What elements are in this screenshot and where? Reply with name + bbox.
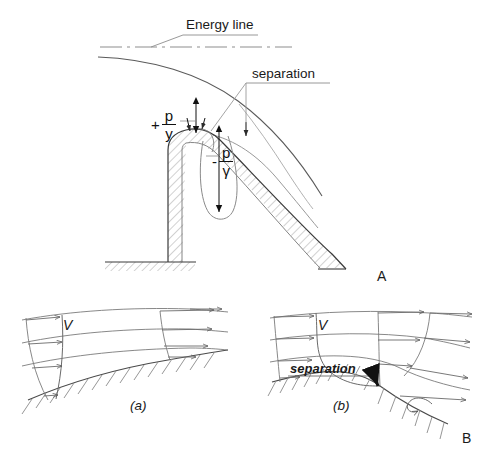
caption-sub-a: (a) — [130, 399, 147, 413]
figure-root: Energy line separation + p y - p γ V V s… — [0, 0, 493, 458]
section-line-b-upstream — [274, 316, 280, 382]
velocity-profile-b-downstream — [404, 313, 430, 376]
section-line-a-downstream — [160, 311, 170, 360]
freestream-arrows-b — [400, 313, 472, 400]
energy-line-label: Energy line — [186, 18, 254, 32]
crest-pressure-arrow-2 — [202, 118, 205, 129]
figure-canvas — [0, 0, 493, 458]
negative-pressure-denominator: γ — [219, 162, 233, 178]
streamline-a-2 — [22, 329, 228, 343]
positive-pressure-sign: + — [151, 116, 160, 133]
positive-pressure-label: + p y — [151, 108, 176, 141]
section-line-a-upstream — [26, 318, 48, 400]
wall-hatch-a — [22, 353, 214, 414]
negative-pressure-sign: - — [212, 153, 217, 170]
negative-pressure-numerator: p — [219, 145, 233, 161]
negative-pressure-label: - p γ — [212, 145, 233, 178]
section-line-b-downstream — [378, 312, 380, 386]
velocity-label-sub-b: V — [318, 318, 327, 332]
velocity-label-sub-a: V — [63, 318, 72, 332]
dam-body-hatch — [168, 129, 345, 268]
streamline-b-2 — [270, 334, 470, 348]
caption-sub-b: (b) — [333, 399, 350, 413]
panel-b-sub-a-group — [22, 308, 228, 414]
streamline-b-1 — [270, 311, 472, 318]
separation-label-panel-a: separation — [252, 67, 315, 81]
separation-leader-a — [211, 83, 330, 131]
foundation-ground — [105, 262, 196, 271]
energy-line — [100, 35, 292, 47]
panel-label-b: B — [462, 431, 471, 445]
panel-label-a: A — [377, 269, 386, 283]
positive-pressure-fraction: p y — [162, 108, 176, 141]
positive-pressure-denominator: y — [162, 125, 176, 141]
separation-label-panel-b: separation — [290, 362, 356, 375]
negative-pressure-fraction: p γ — [219, 145, 233, 178]
streamline-a-3 — [22, 348, 228, 366]
nappe-inner-curve — [239, 104, 313, 209]
positive-pressure-numerator: p — [162, 108, 176, 124]
velocity-vectors-a-downstream — [160, 310, 214, 357]
